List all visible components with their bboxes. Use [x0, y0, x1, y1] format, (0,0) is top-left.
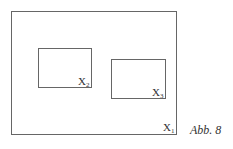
label-x2: X2: [78, 76, 89, 91]
label-x1: X1: [163, 122, 174, 137]
label-x3: X3: [152, 87, 163, 102]
figure-caption: Abb. 8: [190, 124, 221, 136]
